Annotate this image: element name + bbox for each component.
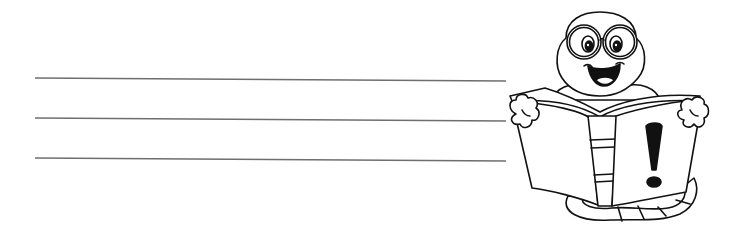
- open-book: [510, 88, 702, 206]
- worm-hand-right: [678, 97, 709, 127]
- worksheet-page: !: [0, 0, 738, 227]
- bookworm-illustration: [0, 0, 738, 227]
